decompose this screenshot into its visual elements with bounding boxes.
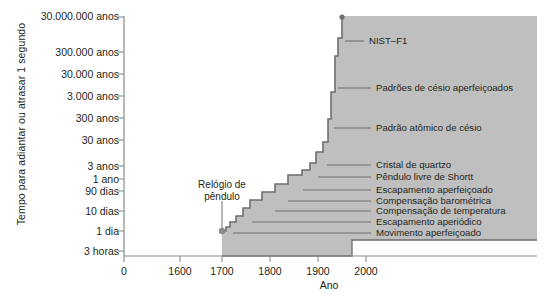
timekeeping-accuracy-chart: Tempo para adiantar ou atrasar 1 segundo… <box>0 0 548 299</box>
x-axis-ticks <box>124 256 366 262</box>
x-tick-label: 1900 <box>306 265 329 277</box>
annotation-improved-movement: Movimento aperfeiçoado <box>376 228 481 238</box>
x-tick-label: 1600 <box>168 265 191 277</box>
annotation-shortt-free-pendulum: Pêndulo livre de Shortt <box>376 172 473 182</box>
x-tick-label: 1800 <box>258 265 281 277</box>
pendulum-clock-annotation: Relógio de pêndulo <box>186 179 258 202</box>
annotation-improved-escapement: Escapamento aperfeiçoado <box>376 185 493 195</box>
nist-f1-endpoint-dot <box>339 14 344 19</box>
annotation-temperature-compensation: Compensação de temperatura <box>376 206 506 216</box>
x-tick-label: 2000 <box>354 265 377 277</box>
y-axis-ticks <box>118 17 124 251</box>
annotation-cesium-atomic: Padrão atômico de césio <box>376 123 482 133</box>
annotation-cesium-improved: Padrões de césio aperfeiçoados <box>376 83 513 93</box>
x-tick-label: 1700 <box>210 265 233 277</box>
x-axis-title: Ano <box>0 279 548 291</box>
annotation-quartz-crystal: Cristal de quartzo <box>376 160 451 170</box>
plot-area <box>0 0 548 299</box>
x-tick-label: 0 <box>121 265 127 277</box>
annotation-aperiodic-escapement: Escapamento aperiódico <box>376 217 482 227</box>
pendulum-annotation-line1: Relógio de <box>186 179 258 191</box>
pendulum-annotation-line2: pêndulo <box>186 191 258 203</box>
annotation-nist-f1: NIST–F1 <box>369 36 407 46</box>
pendulum-clock-start-dot <box>219 228 225 234</box>
